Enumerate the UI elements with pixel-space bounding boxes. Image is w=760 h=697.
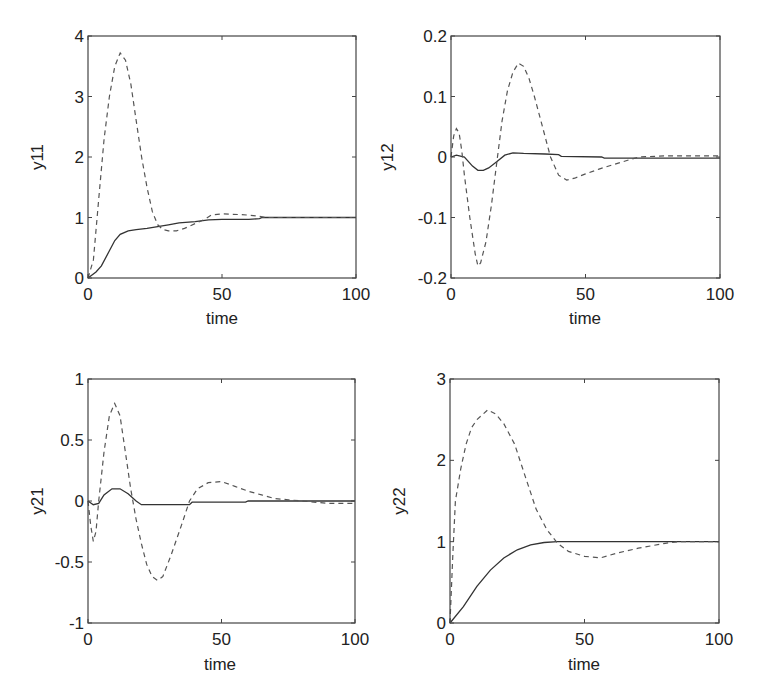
ytick-label: 0 bbox=[438, 148, 447, 167]
xtick-label: 50 bbox=[213, 285, 232, 304]
ylabel-y11: y11 bbox=[28, 144, 47, 170]
ytick-label: -0.2 bbox=[418, 269, 447, 288]
y12-dashed-line bbox=[451, 63, 720, 266]
xtick-label: 100 bbox=[341, 630, 369, 649]
y22-dashed-line bbox=[450, 410, 719, 623]
ytick-label: 0 bbox=[75, 492, 84, 511]
xlabel-y21: time bbox=[204, 655, 236, 674]
xlabel-y12: time bbox=[569, 309, 601, 328]
xtick-label: 0 bbox=[83, 630, 92, 649]
xlabel-y22: time bbox=[568, 655, 600, 674]
ytick-label: 0 bbox=[75, 269, 84, 288]
subplot-y21: y21 time 050100-1-0.500.51 bbox=[28, 370, 369, 674]
xtick-label: 100 bbox=[342, 285, 370, 304]
ytick-label: 1 bbox=[75, 370, 84, 389]
ytick-label: 1 bbox=[75, 209, 84, 228]
ytick-label: 3 bbox=[75, 88, 84, 107]
xtick-label: 50 bbox=[212, 630, 231, 649]
ylabel-y22: y22 bbox=[390, 487, 409, 514]
y22-axes-frame bbox=[450, 379, 719, 623]
subplot-y12: y12 time 050100-0.2-0.100.10.2 bbox=[378, 27, 734, 328]
xtick-label: 0 bbox=[445, 630, 454, 649]
ytick-label: 3 bbox=[437, 370, 446, 389]
ytick-label: 0.5 bbox=[60, 431, 84, 450]
ytick-label: -0.5 bbox=[55, 553, 84, 572]
ytick-label: 2 bbox=[75, 148, 84, 167]
figure: y11 time 05010001234 y12 time 050100-0.2… bbox=[0, 0, 760, 697]
xtick-label: 100 bbox=[706, 285, 734, 304]
y11-axes-frame bbox=[88, 36, 356, 278]
y22-solid-line bbox=[450, 542, 719, 623]
ytick-label: 0.2 bbox=[423, 27, 447, 46]
xtick-label: 0 bbox=[83, 285, 92, 304]
ytick-label: 0.1 bbox=[423, 88, 447, 107]
xtick-label: 0 bbox=[446, 285, 455, 304]
subplot-y22: y22 time 0501000123 bbox=[390, 370, 733, 674]
ylabel-y12: y12 bbox=[378, 143, 397, 170]
y21-dashed-line bbox=[88, 403, 355, 580]
y11-solid-line bbox=[88, 218, 356, 279]
ytick-label: 2 bbox=[437, 451, 446, 470]
ytick-label: 1 bbox=[437, 533, 446, 552]
ytick-label: -1 bbox=[69, 614, 84, 633]
ytick-label: 0 bbox=[437, 614, 446, 633]
ylabel-y21: y21 bbox=[28, 487, 47, 514]
xtick-label: 100 bbox=[705, 630, 733, 649]
xtick-label: 50 bbox=[575, 630, 594, 649]
xtick-label: 50 bbox=[576, 285, 595, 304]
ytick-label: -0.1 bbox=[418, 209, 447, 228]
ytick-label: 4 bbox=[75, 27, 84, 46]
subplot-y11: y11 time 05010001234 bbox=[28, 27, 370, 328]
y11-dashed-line bbox=[88, 53, 356, 278]
xlabel-y11: time bbox=[206, 309, 238, 328]
